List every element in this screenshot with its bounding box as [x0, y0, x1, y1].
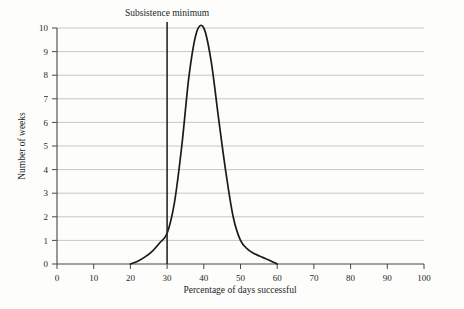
y-tick-label: 5	[44, 141, 49, 151]
y-tick-label: 2	[44, 212, 49, 222]
x-tick-label: 40	[199, 273, 209, 283]
chart-background	[0, 0, 464, 309]
y-axis-title: Number of weeks	[17, 112, 27, 180]
chart-figure: 012345678910 0102030405060708090100 Subs…	[0, 0, 464, 309]
y-tick-label: 7	[44, 94, 49, 104]
y-tick-label: 6	[44, 118, 49, 128]
x-tick-label: 30	[163, 273, 173, 283]
y-tick-label: 8	[44, 70, 49, 80]
x-tick-label: 80	[346, 273, 356, 283]
y-tick-label: 0	[44, 259, 49, 269]
subsistence-minimum-label: Subsistence minimum	[125, 8, 210, 18]
y-tick-label: 4	[44, 165, 49, 175]
y-tick-label: 3	[44, 188, 49, 198]
y-tick-label: 10	[39, 23, 49, 33]
x-tick-label: 0	[55, 273, 60, 283]
y-tick-label: 9	[44, 47, 49, 57]
x-tick-label: 90	[383, 273, 393, 283]
x-axis-title: Percentage of days successful	[183, 285, 297, 295]
x-tick-label: 50	[236, 273, 246, 283]
y-tick-label: 1	[44, 236, 49, 246]
x-tick-label: 60	[273, 273, 283, 283]
x-tick-label: 10	[89, 273, 99, 283]
x-tick-label: 100	[417, 273, 431, 283]
x-tick-label: 20	[126, 273, 136, 283]
x-tick-label: 70	[309, 273, 319, 283]
